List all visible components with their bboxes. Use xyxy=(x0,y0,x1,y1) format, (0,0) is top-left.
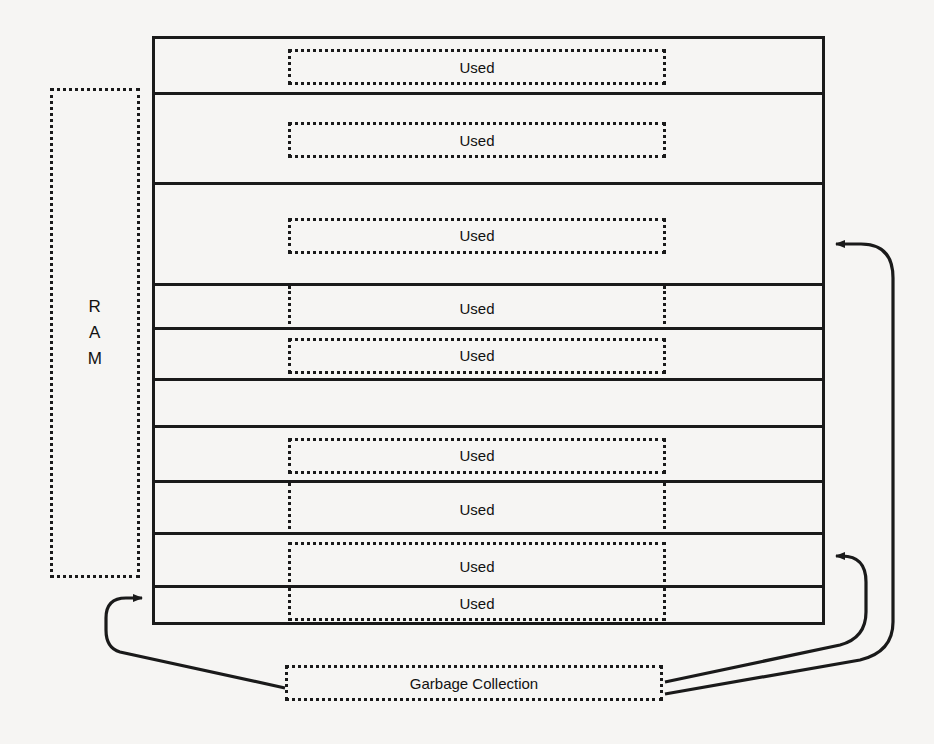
used-block-label: Used xyxy=(459,501,494,518)
used-block-label: Used xyxy=(459,227,494,244)
used-block-label: Used xyxy=(459,347,494,364)
memory-row xyxy=(155,381,822,428)
used-block[interactable]: Used xyxy=(288,122,666,158)
used-block-label: Used xyxy=(459,595,494,612)
used-block-label: Used xyxy=(459,558,494,575)
used-block-label: Used xyxy=(459,132,494,149)
ram-label: R A M xyxy=(88,294,103,372)
used-block-label: Used xyxy=(459,300,494,317)
used-block[interactable]: Used xyxy=(288,542,666,588)
used-block[interactable]: Used xyxy=(288,338,666,374)
used-block-label: Used xyxy=(459,447,494,464)
garbage-collection-box[interactable]: Garbage Collection xyxy=(285,665,663,701)
memory-container: UsedUsedUsedUsedUsedUsedUsedUsedUsed xyxy=(152,36,825,625)
garbage-collection-label: Garbage Collection xyxy=(410,675,538,692)
ram-bracket: R A M xyxy=(50,88,140,578)
used-block[interactable]: Used xyxy=(288,286,666,330)
used-block[interactable]: Used xyxy=(288,588,666,621)
used-block[interactable]: Used xyxy=(288,438,666,474)
diagram-canvas: R A M UsedUsedUsedUsedUsedUsedUsedUsedUs… xyxy=(0,0,934,744)
used-block[interactable]: Used xyxy=(288,218,666,254)
used-block[interactable]: Used xyxy=(288,49,666,85)
used-block[interactable]: Used xyxy=(288,483,666,535)
used-block-label: Used xyxy=(459,59,494,76)
